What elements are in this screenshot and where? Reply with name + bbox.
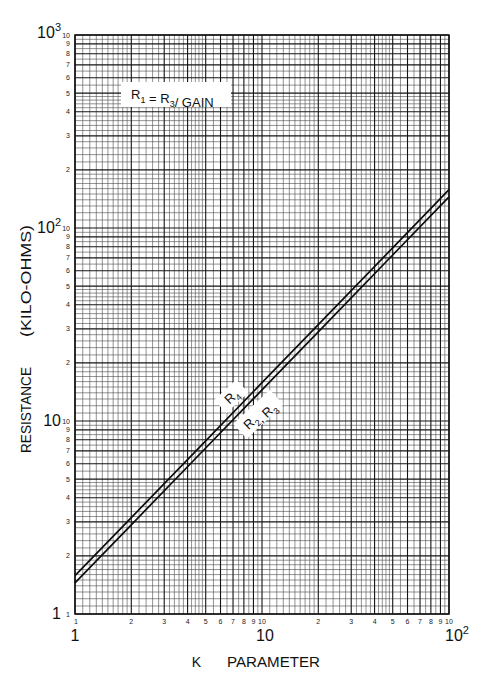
y-tick-label: 5	[66, 476, 70, 483]
y-decade-label: 103	[37, 21, 61, 41]
x-decade-label: 1	[71, 627, 80, 644]
y-tick-label: 4	[66, 108, 70, 115]
y-tick-label: 2	[66, 359, 70, 366]
y-tick-label: 2	[66, 166, 70, 173]
x-tick-label: 2	[316, 618, 320, 625]
y-tick-label: 8	[66, 50, 70, 57]
x-tick-label: 3	[349, 618, 353, 625]
x-tick-label: 4	[186, 618, 190, 625]
y-tick-label: 3	[66, 518, 70, 525]
x-tick-labels: 123456789102345678910110102	[71, 618, 469, 644]
series-label-r4: R4	[214, 379, 250, 414]
x-decade-label: 10	[256, 627, 274, 644]
y-tick-label: 8	[66, 436, 70, 443]
y-tick-label: 10	[62, 418, 70, 425]
x-axis-title-parameter: PARAMETER	[227, 654, 320, 670]
y-tick-label: 1	[66, 611, 70, 618]
y-tick-label: 4	[66, 494, 70, 501]
x-tick-label: 2	[129, 618, 133, 625]
x-tick-label: 5	[204, 618, 208, 625]
x-tick-label: 7	[231, 618, 235, 625]
y-tick-label: 7	[66, 447, 70, 454]
x-tick-label: 6	[406, 618, 410, 625]
x-tick-label: 8	[429, 618, 433, 625]
y-tick-label: 6	[66, 460, 70, 467]
y-tick-label: 10	[62, 225, 70, 232]
x-tick-label: 5	[391, 618, 395, 625]
x-tick-label: 1	[74, 618, 78, 625]
y-tick-label: 3	[66, 325, 70, 332]
y-tick-label: 5	[66, 90, 70, 97]
x-tick-label: 4	[373, 618, 377, 625]
x-tick-label: 9	[251, 618, 255, 625]
x-tick-label: 9	[438, 618, 442, 625]
x-tick-label: 7	[418, 618, 422, 625]
y-axis-title-unit: (KILO-OHMS)	[18, 225, 34, 337]
y-tick-label: 4	[66, 301, 70, 308]
x-axis-title-k: K	[192, 654, 202, 670]
x-tick-label: 8	[242, 618, 246, 625]
y-tick-label: 9	[66, 40, 70, 47]
x-tick-label: 10	[258, 618, 266, 625]
y-tick-label: 3	[66, 132, 70, 139]
y-tick-label: 7	[66, 254, 70, 261]
y-tick-label: 7	[66, 61, 70, 68]
log-log-chart: 123456789102345678910110102 123456789102…	[0, 0, 487, 682]
y-tick-label: 9	[66, 426, 70, 433]
x-tick-label: 6	[219, 618, 223, 625]
grid	[75, 35, 449, 614]
y-tick-label: 2	[66, 552, 70, 559]
y-tick-label: 8	[66, 243, 70, 250]
x-tick-label: 10	[445, 618, 453, 625]
y-axis-title-main: RESISTANCE	[18, 367, 34, 453]
y-tick-label: 6	[66, 74, 70, 81]
y-decade-label: 1	[52, 605, 61, 622]
y-tick-label: 5	[66, 283, 70, 290]
y-tick-labels: 1234567891023456789102345678910110102103	[37, 21, 70, 622]
y-tick-label: 9	[66, 233, 70, 240]
y-tick-label: 10	[62, 32, 70, 39]
x-decade-label: 102	[445, 624, 469, 644]
y-decade-label: 102	[37, 216, 61, 236]
y-tick-label: 6	[66, 267, 70, 274]
y-decade-label: 10	[43, 412, 61, 429]
x-tick-label: 3	[162, 618, 166, 625]
